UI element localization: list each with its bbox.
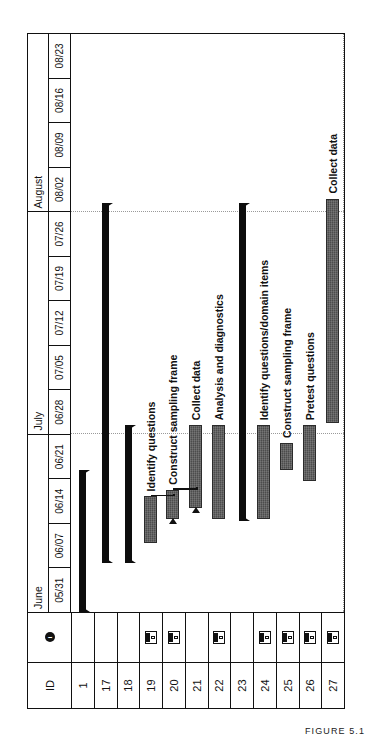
notes-icon[interactable] xyxy=(327,631,339,644)
notes-icon[interactable] xyxy=(281,631,293,644)
table-row[interactable]: 27 xyxy=(322,613,344,708)
table-row[interactable]: 19 xyxy=(140,613,163,708)
link-segment-vertical xyxy=(173,488,196,489)
timeline-week-header: 05/3106/0706/1406/2106/2807/0507/1207/19… xyxy=(49,34,71,612)
week-tick-label: 07/05 xyxy=(49,345,70,390)
notes-icon[interactable] xyxy=(304,631,316,644)
notes-icon[interactable] xyxy=(145,631,157,644)
week-tick-label: 08/09 xyxy=(49,122,70,167)
column-header-id: ID xyxy=(28,662,71,708)
cell-task-id: 24 xyxy=(254,662,276,708)
info-icon: i xyxy=(44,633,54,643)
table-row[interactable]: 18 xyxy=(117,613,140,708)
gantt-chart: ID i 11718192021222324252627 JuneJulyAug… xyxy=(27,33,345,709)
table-row[interactable]: 21 xyxy=(185,613,208,708)
week-tick-label: 06/21 xyxy=(49,434,70,479)
cell-task-id: 19 xyxy=(140,662,162,708)
cell-task-id: 27 xyxy=(322,662,344,708)
table-header-row: ID i xyxy=(28,613,72,708)
cell-indicator xyxy=(231,613,253,662)
timeline-body: Identify questionsConstruct sampling fra… xyxy=(71,34,344,612)
cell-indicator xyxy=(322,613,344,662)
cell-task-id: 18 xyxy=(117,662,139,708)
week-tick-label: 06/07 xyxy=(49,523,70,568)
week-tick-label: 06/14 xyxy=(49,478,70,523)
link-arrowhead xyxy=(192,507,200,513)
cell-task-id: 26 xyxy=(299,662,321,708)
timeline: JuneJulyAugust 05/3106/0706/1406/2106/28… xyxy=(28,34,344,612)
timeline-month-header: JuneJulyAugust xyxy=(28,34,49,612)
week-tick-label: 08/23 xyxy=(49,34,70,78)
cell-task-id: 17 xyxy=(94,662,116,708)
cell-indicator xyxy=(254,613,276,662)
table-row[interactable]: 24 xyxy=(254,613,277,708)
cell-task-id: 25 xyxy=(276,662,298,708)
cell-indicator xyxy=(117,613,139,662)
month-label: June xyxy=(28,434,48,612)
cell-indicator xyxy=(140,613,162,662)
dependency-link xyxy=(71,34,344,612)
table-row[interactable]: 1 xyxy=(72,613,95,708)
month-label: July xyxy=(28,211,48,433)
cell-task-id: 21 xyxy=(185,662,207,708)
link-segment-horizontal xyxy=(196,487,197,489)
figure-caption: FIGURE 5.1 xyxy=(305,726,365,736)
notes-icon[interactable] xyxy=(258,631,270,644)
week-tick-label: 07/12 xyxy=(49,300,70,345)
cell-indicator xyxy=(185,613,207,662)
table-row[interactable]: 17 xyxy=(94,613,117,708)
notes-icon[interactable] xyxy=(167,631,179,644)
cell-indicator xyxy=(299,613,321,662)
cell-indicator xyxy=(276,613,298,662)
cell-indicator xyxy=(72,613,94,662)
week-tick-label: 08/16 xyxy=(49,78,70,123)
cell-indicator xyxy=(208,613,230,662)
cell-task-id: 23 xyxy=(231,662,253,708)
week-tick-label: 08/02 xyxy=(49,167,70,212)
cell-indicator xyxy=(163,613,185,662)
table-row[interactable]: 22 xyxy=(208,613,231,708)
table-row[interactable]: 23 xyxy=(231,613,254,708)
week-tick-label: 05/31 xyxy=(49,567,70,612)
cell-indicator xyxy=(94,613,116,662)
week-tick-label: 06/28 xyxy=(49,389,70,434)
cell-task-id: 20 xyxy=(163,662,185,708)
cell-task-id: 22 xyxy=(208,662,230,708)
table-row[interactable]: 25 xyxy=(276,613,299,708)
column-header-indicator: i xyxy=(28,613,71,662)
notes-icon[interactable] xyxy=(213,631,225,644)
table-body: 11718192021222324252627 xyxy=(72,613,344,708)
month-label: August xyxy=(28,34,48,211)
week-tick-label: 07/19 xyxy=(49,256,70,301)
task-table: ID i 11718192021222324252627 xyxy=(28,612,344,708)
week-tick-label: 07/26 xyxy=(49,211,70,256)
table-row[interactable]: 26 xyxy=(299,613,322,708)
gantt-figure: ID i 11718192021222324252627 JuneJulyAug… xyxy=(0,0,371,742)
table-row[interactable]: 20 xyxy=(163,613,186,708)
rotated-page-canvas: ID i 11718192021222324252627 JuneJulyAug… xyxy=(27,33,345,709)
cell-task-id: 1 xyxy=(72,662,94,708)
